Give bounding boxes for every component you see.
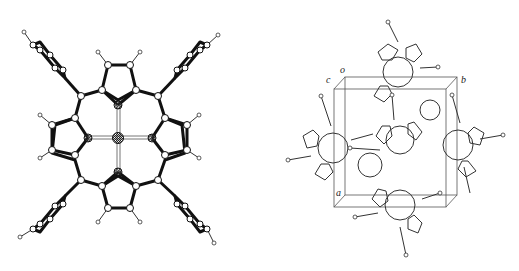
molecule-structure-panel <box>0 0 260 271</box>
crystal-packing-diagram: o c b a <box>260 0 519 271</box>
cell-axis-b-label: b <box>461 74 466 85</box>
crystal-packing-panel: o c b a <box>260 0 519 271</box>
unit-cell <box>334 77 457 207</box>
metal-center-atom <box>113 133 124 144</box>
cell-axis-c-label: c <box>326 74 331 85</box>
porphyrin-molecule-diagram <box>0 0 260 271</box>
cell-origin-label: o <box>340 64 345 75</box>
cell-axis-a-label: a <box>336 187 341 198</box>
